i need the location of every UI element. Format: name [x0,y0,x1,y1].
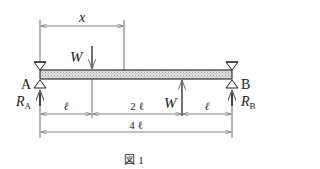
figure-caption: 図 1 [124,154,143,166]
x-label: x [78,10,86,25]
load-w-bottom-label: W [164,95,178,111]
beam-diagram: x A RA B RB W W ℓ 2 ℓ ℓ [0,0,320,169]
load-w-bottom: W [164,80,182,116]
reaction-b-label: RB [240,94,256,111]
beam [40,70,232,79]
load-w-top: W [70,46,92,118]
total-dimension: 4 ℓ [41,119,231,132]
dim-seg2: 2 ℓ [130,100,144,112]
support-b-label: B [241,77,250,92]
support-a-label: A [21,77,32,92]
reaction-a-label: RA [15,94,32,111]
dim-seg1: ℓ [64,100,69,112]
load-w-top-label: W [70,49,84,65]
segment-dimensions: ℓ 2 ℓ ℓ [41,100,231,114]
dim-total: 4 ℓ [129,119,143,131]
dim-seg3: ℓ [205,100,210,112]
